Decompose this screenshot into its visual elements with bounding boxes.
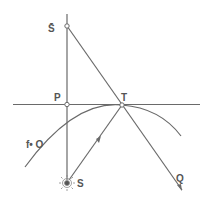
label-s: S [77,178,84,189]
point-sbar [65,24,69,28]
label-q: Q [176,173,184,184]
point-p [65,102,69,106]
arrow-q-end [177,184,182,191]
optics-diagram: S̄ P T S Q f• O [0,0,213,206]
label-o: f• O [26,139,44,150]
label-t: T [121,92,127,103]
point-t [120,103,124,107]
line-sbar-to-q [67,26,182,190]
curve-o [25,105,181,167]
label-s-bar: S̄ [48,23,55,34]
arrow-on-st [96,136,101,143]
label-p: P [54,92,61,103]
